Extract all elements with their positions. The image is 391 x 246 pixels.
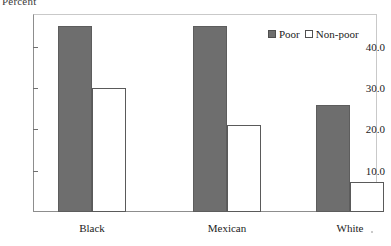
y-tick-mark xyxy=(33,129,38,130)
bar-white-non-poor xyxy=(350,182,384,212)
filled-square-icon xyxy=(268,30,276,38)
legend-label-non-poor: Non-poor xyxy=(316,28,359,40)
bar-mexican-non-poor xyxy=(227,125,261,212)
hollow-square-icon xyxy=(305,30,313,38)
bar-chart: Percent 10.020.030.040.0 BlackMexicanWhi… xyxy=(0,0,391,246)
y-tick-label: 30.0 xyxy=(358,82,391,94)
legend-item-poor: Poor xyxy=(268,28,300,40)
chart-legend: Poor Non-poor xyxy=(268,28,359,40)
x-tick-label-black: Black xyxy=(79,222,105,234)
y-axis-title: Percent xyxy=(2,0,36,7)
y-tick-label: 40.0 xyxy=(358,41,391,53)
x-tick-label-white: White xyxy=(337,222,364,234)
y-tick-mark xyxy=(33,88,38,89)
bar-mexican-poor xyxy=(193,26,227,212)
bar-white-poor xyxy=(316,105,350,212)
y-tick-mark xyxy=(33,47,38,48)
bar-black-poor xyxy=(58,26,92,212)
scan-artifact xyxy=(371,231,373,233)
y-tick-label: 10.0 xyxy=(358,165,391,177)
x-tick-label-mexican: Mexican xyxy=(208,222,246,234)
y-tick-label: 20.0 xyxy=(358,123,391,135)
bar-black-non-poor xyxy=(92,88,126,212)
y-tick-mark xyxy=(33,171,38,172)
legend-item-non-poor: Non-poor xyxy=(305,28,359,40)
legend-label-poor: Poor xyxy=(279,28,300,40)
